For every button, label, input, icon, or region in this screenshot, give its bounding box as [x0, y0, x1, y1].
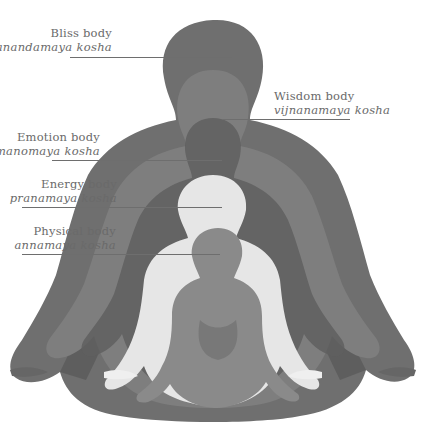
label-sanskrit: vijnanamaya kosha — [274, 103, 424, 117]
label-title: Bliss body — [0, 26, 112, 40]
meditating-figure-illustration — [0, 0, 426, 446]
kosha-diagram: Bliss body anandamaya kosha Wisdom body … — [0, 0, 426, 446]
label-wisdom-body: Wisdom body vijnanamaya kosha — [274, 89, 424, 117]
leader-line-wisdom — [222, 119, 350, 120]
label-title: Emotion body — [0, 130, 100, 144]
label-sanskrit: pranamaya kosha — [0, 191, 117, 205]
label-sanskrit: anandamaya kosha — [0, 40, 112, 54]
label-energy-body: Energy body pranamaya kosha — [0, 177, 117, 205]
label-sanskrit: annamaya kosha — [0, 238, 116, 252]
leader-line-bliss — [70, 57, 232, 58]
label-physical-body: Physical body annamaya kosha — [0, 224, 116, 252]
leader-line-emotion — [52, 160, 222, 161]
label-title: Wisdom body — [274, 89, 424, 103]
label-emotion-body: Emotion body manomaya kosha — [0, 130, 100, 158]
leader-line-energy — [22, 207, 222, 208]
label-bliss-body: Bliss body anandamaya kosha — [0, 26, 112, 54]
label-title: Physical body — [0, 224, 116, 238]
leader-line-physical — [22, 254, 220, 255]
label-sanskrit: manomaya kosha — [0, 144, 100, 158]
label-title: Energy body — [0, 177, 117, 191]
